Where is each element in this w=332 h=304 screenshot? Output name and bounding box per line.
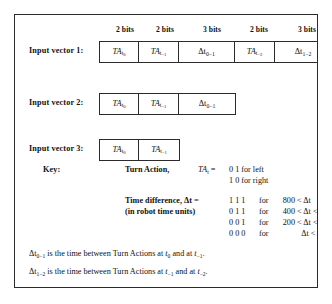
figure-frame: 2 bits2 bits3 bits2 bits3 bits Input vec…	[14, 14, 318, 288]
input-vector-cells-2: TAt0TAt−1Δt0−1	[99, 93, 236, 115]
turn-action-value-right: 1 0 for right	[229, 176, 268, 185]
vector-field-cell: TAt−1	[139, 94, 179, 114]
time-difference-row: 0 1 1for 400 < Δt < 800	[229, 207, 318, 216]
time-difference-title: Time difference, Δt =	[125, 196, 199, 205]
vector-field-cell: Δt0−1	[179, 42, 235, 62]
input-vector-label-2: Input vector 2:	[29, 98, 83, 107]
turn-action-symbol: TAt =	[198, 165, 216, 175]
turn-action-title: Turn Action,	[125, 165, 169, 174]
time-difference-row: 1 1 1for 800 < Δt	[229, 196, 311, 205]
key-heading: Key:	[43, 165, 60, 174]
time-difference-row: 0 0 1for 200 < Δt < 400	[229, 218, 318, 227]
footer-note-2: Δt1−2 is the time between Turn Actions a…	[29, 267, 208, 277]
vector-field-cell: TAt0	[100, 42, 139, 62]
vector-field-cell: Δt0−1	[179, 94, 235, 114]
vector-field-cell: TAt−1	[139, 140, 179, 160]
time-difference-units: (in robot time units)	[125, 207, 195, 216]
bit-width-label-2: 2 bits	[156, 25, 174, 34]
input-vector-label-1: Input vector 1:	[29, 46, 83, 55]
bit-width-label-5: 3 bits	[298, 25, 316, 34]
bit-width-label-4: 2 bits	[250, 25, 268, 34]
bit-width-label-1: 2 bits	[116, 25, 134, 34]
vector-field-cell: Δt1−2	[275, 42, 318, 62]
footer-note-1: Δt0−1 is the time between Turn Actions a…	[29, 249, 205, 259]
vector-field-cell: TAt0	[100, 140, 139, 160]
input-vector-cells-1: TAt0TAt−1Δt0−1TAt−2Δt1−2	[99, 41, 318, 63]
time-difference-row: 0 0 0for Δt < 200	[229, 229, 318, 238]
bit-width-label-3: 3 bits	[203, 25, 221, 34]
vector-field-cell: TAt−2	[235, 42, 275, 62]
turn-action-value-left: 0 1 for left	[229, 165, 264, 174]
input-vector-cells-3: TAt0TAt−1	[99, 139, 180, 161]
vector-field-cell: TAt0	[100, 94, 139, 114]
input-vector-label-3: Input vector 3:	[29, 144, 83, 153]
vector-field-cell: TAt−1	[139, 42, 179, 62]
